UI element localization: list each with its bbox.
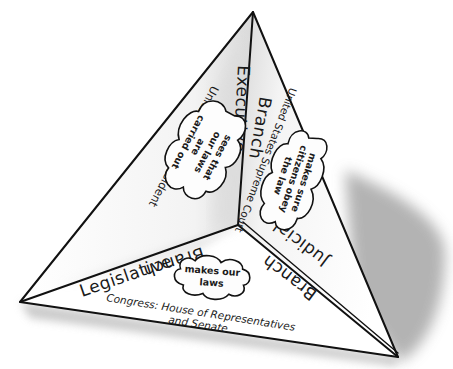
three-branches-pyramid-diagram: Executive Branch United States President…	[0, 0, 453, 369]
svg-text:laws: laws	[199, 276, 224, 289]
pyramid-drawing: Executive Branch United States President…	[0, 0, 453, 369]
